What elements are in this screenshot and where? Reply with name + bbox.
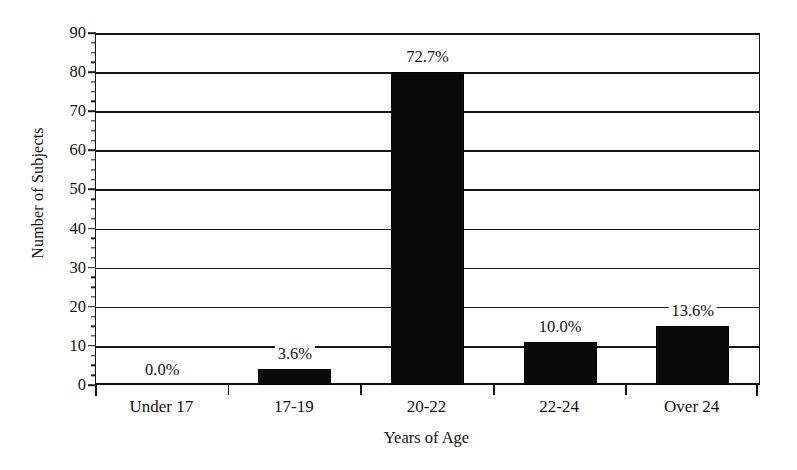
y-tick-label: 70	[48, 103, 86, 120]
plot-area: 0.0%3.6%72.7%10.0%13.6%	[95, 33, 760, 385]
y-tick-label: 50	[48, 181, 86, 198]
y-tick-label: 0	[48, 377, 86, 394]
bar	[391, 72, 464, 385]
bar	[524, 342, 597, 385]
bar-value-label: 0.0%	[142, 362, 182, 379]
x-tick-label: 22-24	[539, 396, 579, 417]
x-axis-tick-marks	[95, 385, 758, 395]
y-tick-label: 90	[48, 25, 86, 42]
y-tick-label: 60	[48, 142, 86, 159]
bar-value-label: 10.0%	[536, 319, 585, 336]
x-tick-mark	[228, 385, 230, 395]
x-tick-label: Under 17	[129, 396, 193, 417]
bar-chart-figure: Number of Subjects 0102030405060708090 0…	[0, 0, 797, 470]
x-tick-label: 20-22	[407, 396, 447, 417]
x-axis-title: Years of Age	[95, 428, 758, 448]
y-tick-label: 20	[48, 299, 86, 316]
x-tick-mark	[625, 385, 627, 395]
y-tick-label: 30	[48, 259, 86, 276]
bar	[656, 326, 729, 385]
bar-value-label: 3.6%	[275, 346, 315, 363]
bar	[258, 369, 331, 385]
x-tick-mark	[756, 385, 758, 396]
x-tick-mark	[493, 385, 495, 395]
bar-value-label: 72.7%	[403, 49, 452, 66]
bar-series	[96, 33, 759, 385]
x-axis-tick-labels: Under 1717-1920-2222-24Over 24	[95, 396, 758, 422]
x-tick-label: Over 24	[664, 396, 719, 417]
x-tick-mark	[360, 385, 362, 395]
bar-value-label: 13.6%	[668, 303, 717, 320]
y-tick-label: 40	[48, 220, 86, 237]
y-axis-tick-labels: 0102030405060708090	[48, 33, 86, 385]
x-tick-label: 17-19	[274, 396, 314, 417]
y-axis-title: Number of Subjects	[29, 93, 47, 293]
y-tick-label: 10	[48, 338, 86, 355]
y-tick-label: 80	[48, 64, 86, 81]
x-tick-mark	[95, 385, 97, 396]
